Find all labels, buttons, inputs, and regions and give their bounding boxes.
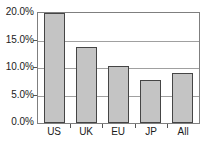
x-tick (70, 124, 71, 128)
bar (108, 66, 129, 123)
y-tick (33, 67, 37, 68)
bar (172, 73, 193, 123)
y-axis-label: 10.0% (0, 61, 34, 73)
x-axis-label: US (38, 126, 70, 138)
x-axis-label: JP (135, 126, 167, 138)
bar-chart: 0.0%5.0%10.0%15.0%20.0%USUKEUJPAll (0, 0, 207, 149)
y-axis-label: 15.0% (0, 34, 34, 46)
x-axis-label: EU (102, 126, 134, 138)
bar (76, 47, 97, 123)
bar (44, 13, 65, 123)
y-axis-label: 5.0% (0, 89, 34, 101)
y-tick (33, 40, 37, 41)
x-tick (102, 124, 103, 128)
x-axis-label: All (167, 126, 199, 138)
y-axis-label: 20.0% (0, 6, 34, 18)
x-tick (135, 124, 136, 128)
y-axis-label: 0.0% (0, 116, 34, 128)
x-tick (167, 124, 168, 128)
bar (140, 80, 161, 123)
x-axis-label: UK (70, 126, 102, 138)
y-tick (33, 95, 37, 96)
